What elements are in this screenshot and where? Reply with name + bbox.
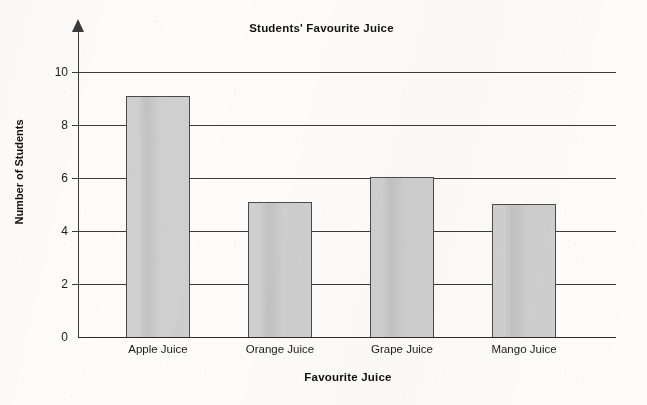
- x-tick-label-grape-juice: Grape Juice: [342, 343, 462, 355]
- bar-apple-juice: [126, 96, 190, 338]
- x-axis-baseline: [78, 337, 616, 338]
- x-axis-title: Favourite Juice: [78, 371, 618, 383]
- bar-orange-juice: [248, 202, 312, 338]
- gridline-10: [78, 72, 616, 73]
- bar-grape-juice: [370, 177, 434, 338]
- y-tick-mark-10: [72, 72, 79, 73]
- y-axis-title: Number of Students: [13, 112, 25, 232]
- y-tick-label-4: 4: [46, 224, 68, 238]
- chart-title: Students' Favourite Juice: [0, 22, 647, 34]
- y-tick-mark-8: [72, 125, 79, 126]
- chart-page: 0 2 4 6 8 10 Apple Juice Orange Juice Gr…: [0, 0, 647, 405]
- bar-mango-juice: [492, 204, 556, 338]
- y-tick-label-2: 2: [46, 277, 68, 291]
- y-tick-label-6: 6: [46, 171, 68, 185]
- y-tick-label-8: 8: [46, 118, 68, 132]
- x-tick-label-apple-juice: Apple Juice: [98, 343, 218, 355]
- y-tick-label-10: 10: [46, 65, 68, 79]
- y-tick-label-0: 0: [46, 330, 68, 344]
- x-tick-label-orange-juice: Orange Juice: [220, 343, 340, 355]
- x-tick-label-mango-juice: Mango Juice: [464, 343, 584, 355]
- plot-area: 0 2 4 6 8 10 Apple Juice Orange Juice Gr…: [0, 0, 647, 405]
- y-tick-mark-2: [72, 284, 79, 285]
- y-axis-line: [78, 30, 79, 338]
- chart-title-text: Students' Favourite Juice: [249, 22, 394, 34]
- y-tick-mark-6: [72, 178, 79, 179]
- y-tick-mark-4: [72, 231, 79, 232]
